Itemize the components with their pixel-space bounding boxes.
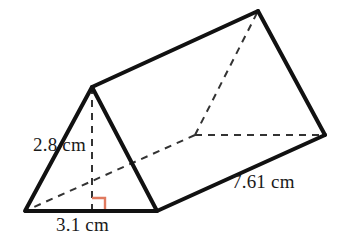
hidden-edge-back-left-to-back-apex	[195, 11, 258, 135]
back-apex-to-right-edge	[258, 11, 325, 135]
base-measurement-label: 3.1 cm	[56, 215, 109, 234]
length-measurement-label: 7.61 cm	[232, 172, 295, 191]
height-measurement-label: 2.8 cm	[33, 135, 86, 154]
top-ridge-edge	[92, 11, 258, 87]
geometry-diagram-canvas: 2.8 cm 3.1 cm 7.61 cm	[0, 0, 344, 248]
triangular-prism-figure	[0, 0, 344, 248]
